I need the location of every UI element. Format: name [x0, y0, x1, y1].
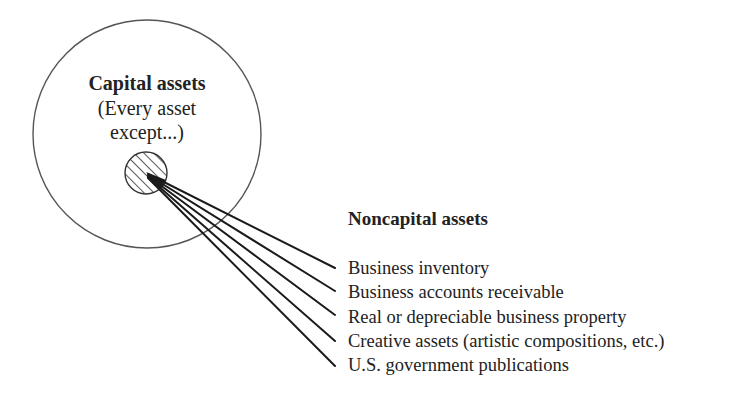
connector-lines — [148, 174, 335, 366]
noncapital-item-accounts-receivable: Business accounts receivable — [348, 280, 664, 304]
noncapital-item-business-property: Real or depreciable business property — [348, 305, 664, 329]
noncapital-item-government-publications: U.S. government publications — [348, 353, 664, 377]
noncapital-assets-title: Noncapital assets — [348, 207, 488, 231]
noncapital-assets-list: Business inventory Business accounts rec… — [348, 256, 664, 377]
capital-assets-subtitle-line2: except...) — [47, 120, 247, 144]
noncapital-item-business-inventory: Business inventory — [348, 256, 664, 280]
capital-assets-title: Capital assets — [47, 71, 247, 95]
connector-line-5 — [148, 178, 335, 366]
connector-line-1 — [148, 174, 335, 268]
noncapital-item-creative-assets: Creative assets (artistic compositions, … — [348, 329, 664, 353]
connector-line-2 — [148, 175, 335, 291]
connector-line-4 — [148, 177, 335, 341]
capital-assets-subtitle-line1: (Every asset — [47, 96, 247, 120]
